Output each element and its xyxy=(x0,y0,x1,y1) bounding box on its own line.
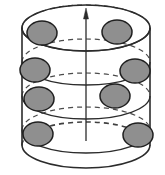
particle-p7 xyxy=(23,122,53,146)
particle-p8 xyxy=(123,123,153,147)
figure-container: Cylinder with rotation axis and particle… xyxy=(0,0,165,175)
particle-p6 xyxy=(100,84,130,108)
cylinder-diagram-svg xyxy=(0,0,165,175)
particle-p4 xyxy=(120,59,150,83)
particle-p1 xyxy=(27,21,57,45)
particle-p3 xyxy=(20,58,50,82)
particle-p2 xyxy=(102,20,132,44)
particle-p5 xyxy=(24,87,54,111)
figure-background xyxy=(0,0,165,175)
